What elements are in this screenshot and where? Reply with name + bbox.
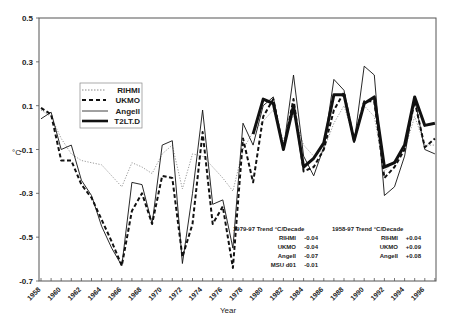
svg-text:UKMO: UKMO bbox=[278, 244, 297, 250]
x-axis-label: Year bbox=[220, 306, 237, 315]
svg-text:-0.04: -0.04 bbox=[304, 235, 318, 241]
svg-text:+0.08: +0.08 bbox=[406, 253, 422, 259]
x-tick-label: 1996 bbox=[410, 286, 426, 302]
x-tick-label: 1970 bbox=[147, 286, 163, 302]
svg-text:+0.04: +0.04 bbox=[406, 235, 422, 241]
y-tick-label: -0.1 bbox=[19, 146, 33, 155]
y-axis-ticks: 0.50.30.1-0.1-0.3-0.5-0.7 bbox=[19, 14, 39, 286]
x-tick-label: 1992 bbox=[369, 286, 385, 302]
x-tick-label: 1978 bbox=[228, 286, 244, 302]
x-tick-label: 1974 bbox=[187, 286, 203, 302]
y-tick-label: -0.5 bbox=[19, 233, 33, 242]
svg-text:1958-97 Trend °C/Decade: 1958-97 Trend °C/Decade bbox=[332, 226, 404, 232]
y-tick-label: -0.3 bbox=[19, 189, 33, 198]
legend-t2lt: T2LT.D bbox=[114, 117, 140, 126]
x-tick-label: 1958 bbox=[26, 286, 42, 302]
svg-text:-0.07: -0.07 bbox=[304, 253, 318, 259]
plot-frame bbox=[39, 18, 436, 281]
svg-text:1979-97 Trend °C/Decade: 1979-97 Trend °C/Decade bbox=[233, 226, 305, 232]
x-tick-label: 1972 bbox=[167, 286, 183, 302]
x-tick-label: 1976 bbox=[208, 286, 224, 302]
x-tick-label: 1984 bbox=[288, 286, 304, 302]
x-tick-label: 1962 bbox=[66, 286, 82, 302]
x-tick-label: 1968 bbox=[127, 286, 143, 302]
x-tick-label: 1964 bbox=[86, 286, 102, 302]
x-tick-label: 1960 bbox=[46, 286, 62, 302]
x-tick-label: 1986 bbox=[309, 286, 325, 302]
legend: RIHMI UKMO Angell T2LT.D bbox=[80, 83, 142, 128]
y-axis-label: °C bbox=[12, 148, 21, 157]
x-tick-label: 1988 bbox=[329, 286, 345, 302]
x-tick-label: 1994 bbox=[389, 286, 405, 302]
x-axis-ticks: 1958196019621964196619681970197219741976… bbox=[26, 278, 435, 302]
x-tick-label: 1990 bbox=[349, 286, 365, 302]
legend-angell: Angell bbox=[116, 107, 140, 116]
y-tick-label: 0.5 bbox=[22, 14, 34, 23]
svg-text:-0.01: -0.01 bbox=[304, 262, 318, 268]
temperature-trend-chart: 0.50.30.1-0.1-0.3-0.5-0.7 19581960196219… bbox=[0, 0, 450, 328]
x-tick-label: 1980 bbox=[248, 286, 264, 302]
svg-text:+0.09: +0.09 bbox=[406, 244, 422, 250]
svg-text:RIHMI: RIHMI bbox=[279, 235, 296, 241]
legend-ukmo: UKMO bbox=[116, 96, 140, 105]
svg-text:Angell: Angell bbox=[278, 253, 297, 259]
legend-rihmi: RIHMI bbox=[117, 86, 140, 95]
y-tick-label: -0.7 bbox=[19, 277, 33, 286]
y-tick-label: 0.1 bbox=[22, 102, 34, 111]
svg-text:MSU d01: MSU d01 bbox=[271, 262, 297, 268]
y-tick-label: 0.3 bbox=[22, 58, 34, 67]
x-tick-label: 1966 bbox=[107, 286, 123, 302]
svg-text:Angell: Angell bbox=[380, 253, 399, 259]
svg-text:-0.04: -0.04 bbox=[304, 244, 318, 250]
svg-text:UKMO: UKMO bbox=[380, 244, 399, 250]
x-tick-label: 1982 bbox=[268, 286, 284, 302]
svg-text:RIHMI: RIHMI bbox=[381, 235, 398, 241]
